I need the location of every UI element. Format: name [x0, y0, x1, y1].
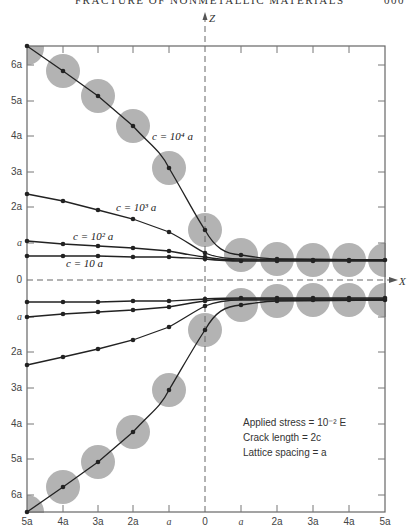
label-c1e4: c = 10⁴ a: [152, 130, 193, 142]
z-tick-6a-down: 6a: [11, 489, 23, 500]
z-tick-a-down: a: [17, 311, 22, 322]
z-tick-2a-down: 2a: [11, 346, 23, 357]
label-c1e1: c = 10 a: [66, 257, 104, 269]
label-c1e2: c = 10² a: [73, 230, 114, 242]
x-axis-label: X: [398, 275, 407, 287]
z-tick-5a-up: 5a: [11, 95, 23, 106]
x-tick-5a-right: 5a: [379, 516, 391, 527]
label-c1e3: c = 10³ a: [116, 201, 157, 213]
plot-frame: [27, 46, 385, 512]
x-tick-a-right: a: [239, 516, 244, 527]
data-points: [25, 44, 388, 515]
z-tick-3a-down: 3a: [11, 382, 23, 393]
z-tick-6a-up: 6a: [11, 59, 23, 70]
x-tick-2a-right: 2a: [271, 516, 283, 527]
z-tick-4a-up: 4a: [11, 130, 23, 141]
atoms-lower: [10, 283, 402, 529]
x-tick-2a-left: 2a: [127, 516, 139, 527]
z-axis-label: Z: [209, 12, 216, 24]
z-tick-0: 0: [16, 274, 22, 285]
annotation-block: Applied stress = 10⁻² E Crack length = 2…: [243, 417, 346, 458]
crack-displacement-diagram: Z X c = 10⁴ a c = 10³ a c = 10² a c = 10…: [0, 0, 418, 530]
top-ticks: [63, 46, 349, 53]
note-crack-length: Crack length = 2c: [243, 432, 321, 443]
curves: [27, 46, 385, 512]
x-tick-3a-left: 3a: [92, 516, 104, 527]
x-tick-5a-left: 5a: [21, 516, 33, 527]
x-tick-3a-right: 3a: [307, 516, 319, 527]
x-tick-4a-left: 4a: [57, 516, 69, 527]
atoms-upper: [10, 31, 402, 277]
bottom-ticks: [63, 505, 349, 512]
z-tick-2a-up: 2a: [11, 201, 23, 212]
note-applied-stress: Applied stress = 10⁻² E: [243, 417, 346, 428]
z-axis-arrow-icon: [203, 12, 208, 20]
x-tick-a-left: a: [167, 516, 172, 527]
z-tick-4a-down: 4a: [11, 418, 23, 429]
x-tick-0: 0: [202, 516, 208, 527]
z-tick-3a-up: 3a: [11, 166, 23, 177]
x-tick-4a-right: 4a: [343, 516, 355, 527]
note-lattice-spacing: Lattice spacing = a: [243, 447, 327, 458]
z-tick-5a-down: 5a: [11, 453, 23, 464]
z-tick-a-up: a: [17, 237, 22, 248]
